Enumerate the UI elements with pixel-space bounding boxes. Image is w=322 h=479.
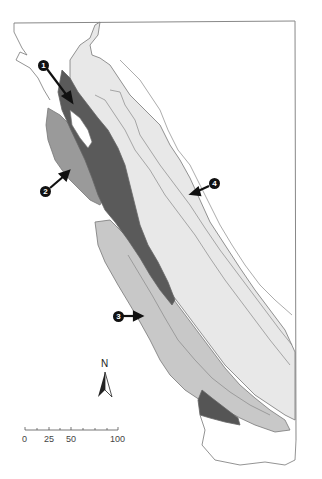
arrow-2 [50,171,69,188]
map-canvas [0,0,322,479]
scale-label-100: 100 [110,434,125,444]
marker-4: 4 [209,178,220,189]
marker-2: 2 [40,186,51,197]
north-arrow-icon [98,372,112,397]
north-label: N [101,358,108,369]
scale-label-50: 50 [66,434,76,444]
marker-1: 1 [38,60,49,71]
scale-label-25: 25 [44,434,54,444]
marker-3: 3 [113,311,124,322]
scale-label-0: 0 [22,434,27,444]
scale-bar [25,427,118,430]
